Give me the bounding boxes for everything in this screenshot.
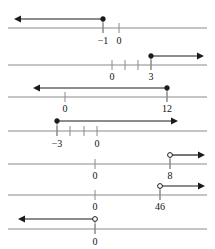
open-endpoint-circle — [168, 153, 173, 158]
tick-label: 12 — [162, 103, 172, 114]
arrow-head-icon — [14, 15, 21, 22]
number-line-group: 046 — [8, 182, 207, 212]
tick-label: −1 — [98, 35, 109, 46]
arrow-head-icon — [18, 215, 25, 222]
number-line-group: 08 — [8, 151, 207, 181]
number-line-canvas: −1003012−30080460 — [0, 0, 215, 249]
closed-endpoint-dot — [55, 119, 60, 124]
number-line-group: 0 — [8, 215, 207, 247]
number-line-group: −10 — [8, 15, 207, 46]
tick-label: 0 — [117, 35, 122, 46]
tick-label: 8 — [168, 170, 173, 181]
number-line-group: 012 — [8, 84, 207, 114]
tick-label: 0 — [95, 138, 100, 149]
number-line-group: −30 — [8, 117, 207, 149]
arrow-head-icon — [33, 84, 40, 91]
tick-label: 46 — [155, 201, 165, 212]
tick-label: 0 — [93, 201, 98, 212]
open-endpoint-circle — [93, 217, 98, 222]
tick-label: −3 — [52, 138, 63, 149]
tick-label: 3 — [149, 71, 154, 82]
number-line-group: 03 — [8, 52, 207, 82]
open-endpoint-circle — [158, 184, 163, 189]
arrow-head-icon — [197, 52, 204, 59]
tick-label: 0 — [93, 236, 98, 247]
closed-endpoint-dot — [165, 86, 170, 91]
closed-endpoint-dot — [149, 54, 154, 59]
number-line-figure: −1003012−30080460 — [0, 0, 215, 249]
arrow-head-icon — [171, 117, 178, 124]
tick-label: 0 — [110, 71, 115, 82]
closed-endpoint-dot — [101, 17, 106, 22]
tick-label: 0 — [63, 103, 68, 114]
arrow-head-icon — [198, 151, 205, 158]
tick-label: 0 — [93, 170, 98, 181]
arrow-head-icon — [198, 182, 205, 189]
